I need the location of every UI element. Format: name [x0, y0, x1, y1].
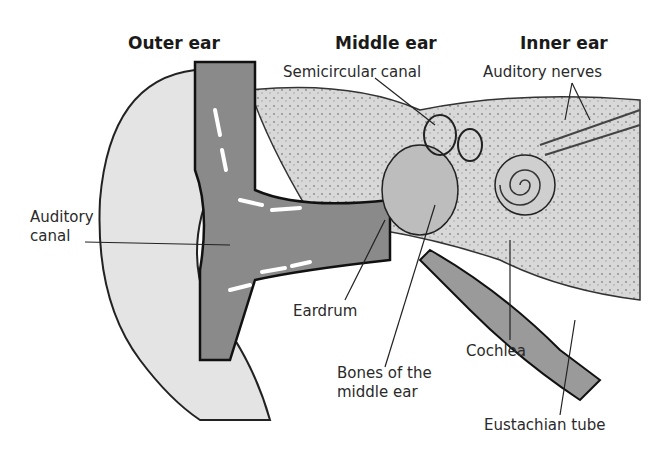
header-middle-ear: Middle ear	[335, 33, 437, 53]
label-bones-middle-ear: Bones of the middle ear	[337, 364, 432, 402]
cochlea-spiral	[495, 155, 555, 215]
label-bones-line2: middle ear	[337, 383, 432, 402]
label-cochlea: Cochlea	[466, 342, 526, 361]
label-auditory-canal-line2: canal	[30, 227, 94, 246]
header-inner-ear: Inner ear	[520, 33, 608, 53]
middle-ear-chamber	[382, 145, 458, 235]
label-eardrum: Eardrum	[293, 302, 357, 321]
header-outer-ear: Outer ear	[128, 33, 220, 53]
label-auditory-nerves: Auditory nerves	[483, 63, 602, 82]
label-semicircular-canal: Semicircular canal	[283, 63, 421, 82]
label-auditory-canal: Auditory canal	[30, 208, 94, 246]
label-auditory-canal-line1: Auditory	[30, 208, 94, 227]
label-eustachian-tube: Eustachian tube	[484, 416, 605, 435]
label-bones-line1: Bones of the	[337, 364, 432, 383]
